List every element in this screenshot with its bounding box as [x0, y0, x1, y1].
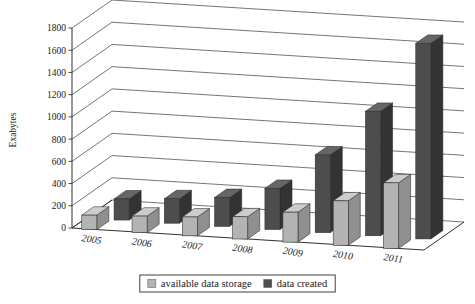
chart-container: 020040060080010001200140016001800 200520…	[0, 0, 475, 304]
bar-available-data-storage	[283, 204, 310, 242]
chart-background	[0, 0, 475, 304]
y-tick-label: 1800	[47, 23, 66, 33]
y-tick-label: 800	[52, 135, 67, 145]
legend-item[interactable]: available data storage	[148, 278, 252, 289]
legend-swatch-data-created	[264, 280, 272, 288]
y-tick-label: 200	[52, 201, 67, 211]
bar-data-created	[416, 35, 443, 239]
legend-swatch-available-data-storage	[148, 280, 156, 288]
y-tick-label: 400	[52, 179, 67, 189]
chart-legend: available data storagedata created	[140, 275, 335, 292]
y-tick-label: 1200	[47, 90, 66, 100]
bar-available-data-storage	[383, 174, 410, 248]
bar-available-data-storage	[333, 192, 360, 245]
y-tick-label: 1400	[47, 68, 66, 78]
y-tick-label: 0	[61, 223, 66, 233]
y-axis-title: Exabytes	[8, 112, 18, 147]
legend-item-label: available data storage	[161, 278, 252, 289]
y-tick-label: 1000	[47, 112, 66, 122]
y-tick-label: 1600	[47, 46, 66, 56]
y-tick-label: 600	[52, 157, 67, 167]
bar-chart-3d: 020040060080010001200140016001800 200520…	[0, 0, 475, 304]
legend-item-label: data created	[277, 278, 328, 289]
y-axis-title-text: Exabytes	[8, 112, 18, 147]
